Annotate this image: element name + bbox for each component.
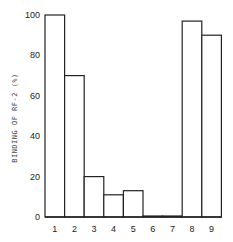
x-axis-ticks: 123456789 [52,224,214,234]
x-tick-label: 7 [170,224,175,234]
y-tick-label: 0 [35,212,40,222]
bar-2 [65,76,85,217]
y-axis-label: BINDING OF RF-2 (%) [11,73,19,163]
y-tick-label: 100 [25,10,40,20]
x-tick-label: 8 [189,224,194,234]
bar-1 [45,15,65,217]
y-tick-label: 80 [30,50,40,60]
y-axis-ticks: 020406080100 [25,10,40,222]
bar-8 [182,21,202,217]
y-tick-label: 60 [30,91,40,101]
x-tick-label: 3 [91,224,96,234]
bars [45,15,221,217]
x-tick-label: 9 [209,224,214,234]
bar-3 [84,177,104,217]
bar-9 [202,35,222,217]
y-tick-label: 20 [30,172,40,182]
x-tick-label: 5 [131,224,136,234]
x-tick-label: 2 [72,224,77,234]
y-tick-label: 40 [30,131,40,141]
x-tick-label: 4 [111,224,116,234]
bar-chart: 020406080100 BINDING OF RF-2 (%) 1234567… [0,0,233,242]
bar-4 [104,195,124,217]
x-tick-label: 6 [150,224,155,234]
bar-5 [123,191,143,217]
x-tick-label: 1 [52,224,57,234]
